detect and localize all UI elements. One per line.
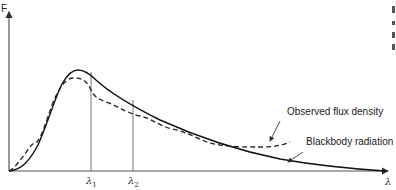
lambda2-label: λ2: [128, 175, 139, 189]
blackbody-arrow: [288, 152, 303, 162]
observed-flux-curve: [9, 78, 290, 171]
y-axis-label: F: [1, 3, 7, 14]
cropped-text-mark: [392, 6, 395, 13]
cropped-text-mark: [392, 44, 395, 50]
x-axis-lambda: λ: [385, 176, 391, 187]
blackbody-annotation: Blackbody radiation: [306, 136, 393, 147]
observed-flux-annotation: Observed flux density: [287, 106, 383, 117]
blackbody-curve: [9, 70, 385, 171]
spectrum-diagram: [0, 0, 396, 190]
lambda1-label: λ1: [86, 175, 97, 189]
lambda1-subscript: 1: [92, 181, 96, 189]
lambda2-subscript: 2: [134, 181, 138, 189]
observed-arrow: [270, 121, 280, 141]
cropped-text-mark: [392, 21, 395, 25]
cropped-text-mark: [392, 32, 395, 38]
x-axis-label: λ: [385, 176, 391, 187]
